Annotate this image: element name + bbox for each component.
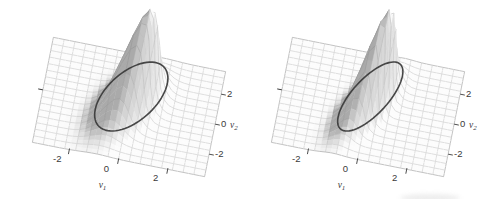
y-axis-tick	[221, 94, 226, 95]
x-axis-tick-label: 0	[343, 163, 348, 174]
y-axis-tick	[454, 124, 459, 125]
surface-cell	[318, 131, 324, 134]
y-axis-tick	[215, 124, 220, 125]
surface-cell	[78, 136, 84, 140]
y-axis-tick-label: 0	[460, 118, 465, 129]
surface-cell	[77, 110, 83, 113]
scan-shadow-artifact	[400, 194, 460, 199]
surface-cell	[78, 132, 84, 136]
y-axis-tick-label: -2	[454, 148, 462, 159]
surface-cell	[317, 134, 323, 137]
x-axis-label: v1	[99, 180, 107, 192]
surface-mesh	[271, 10, 464, 177]
surface-plot-left: -202v1-202v2	[0, 0, 239, 199]
surface-cell	[101, 77, 107, 80]
surface-cell	[321, 144, 327, 148]
y-axis-tick	[460, 94, 465, 95]
surface-cell	[76, 116, 82, 119]
surface-plot-right-svg: -202v1-202v2	[239, 0, 478, 199]
surface-cell	[78, 107, 84, 110]
surface-cell	[320, 121, 326, 125]
x-axis-tick-label: -2	[292, 153, 300, 164]
surface-cell	[318, 128, 324, 131]
x-axis-tick-label: 2	[392, 172, 397, 183]
surface-mesh	[32, 9, 225, 177]
x-axis-tick-label: 0	[104, 163, 109, 174]
surface-plot-left-svg: -202v1-202v2	[0, 0, 239, 199]
y-axis-tick-label: -2	[215, 148, 223, 159]
y-axis-far-tick	[277, 89, 282, 90]
figure-bivariate-gaussian-surfaces: -202v1-202v2 -202v1-202v2	[0, 0, 478, 199]
surface-cell	[86, 95, 92, 98]
y-axis-far-tick	[38, 89, 43, 90]
surface-cell	[321, 141, 327, 145]
y-axis-tick	[448, 154, 453, 155]
surface-cell	[75, 123, 81, 126]
surface-cell	[74, 126, 80, 129]
y-axis-label: v2	[230, 120, 238, 132]
surface-cell	[77, 113, 83, 116]
x-axis-label: v1	[338, 180, 346, 192]
y-axis-tick	[209, 154, 214, 155]
y-axis-label: v2	[469, 120, 477, 132]
y-axis-tick-label: 2	[227, 88, 232, 99]
surface-cell	[73, 130, 79, 134]
x-axis-tick-label: 2	[153, 172, 158, 183]
x-axis-tick-label: -2	[53, 153, 61, 164]
surface-cell	[107, 72, 113, 75]
surface-plot-right: -202v1-202v2	[239, 0, 478, 199]
y-axis-tick-label: 2	[466, 88, 471, 99]
surface-cell	[75, 120, 81, 123]
y-axis-tick-label: 0	[221, 118, 226, 129]
surface-cell	[316, 137, 322, 141]
